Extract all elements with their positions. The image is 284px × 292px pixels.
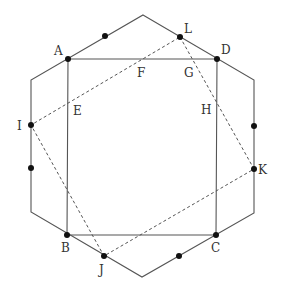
- label-e: E: [73, 104, 82, 118]
- label-a: A: [53, 44, 63, 58]
- label-b: B: [61, 241, 70, 255]
- label-f: F: [137, 66, 145, 80]
- label-c: C: [211, 241, 220, 255]
- label-h: H: [201, 103, 211, 117]
- label-i: I: [17, 119, 22, 133]
- label-d: D: [221, 43, 231, 57]
- square-abcd: [67, 59, 217, 235]
- label-l: L: [184, 22, 192, 36]
- label-g: G: [184, 66, 194, 80]
- label-j: J: [97, 263, 104, 277]
- label-k: K: [258, 163, 268, 177]
- geometry-figure: A D B C L K J I E F G H: [0, 0, 284, 292]
